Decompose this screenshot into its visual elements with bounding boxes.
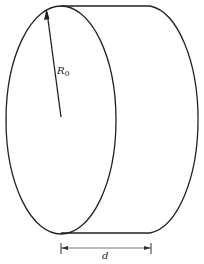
front-face-ellipse	[6, 6, 116, 234]
radius-subscript: 0	[65, 69, 70, 78]
radius-symbol: R	[57, 65, 65, 76]
cylinder-body-outline	[61, 6, 198, 233]
radius-label: R0	[57, 65, 70, 78]
dimension-arrow-left-icon	[61, 246, 68, 250]
cylinder-diagram	[0, 0, 204, 264]
dimension-arrow-right-icon	[144, 246, 151, 250]
thickness-label: d	[102, 250, 108, 261]
